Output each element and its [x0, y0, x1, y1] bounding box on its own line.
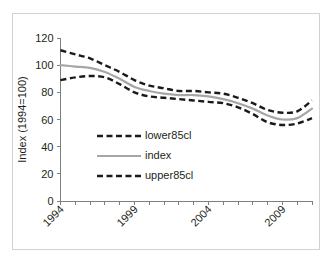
x-tick-label-group: 2009	[262, 203, 288, 229]
y-tick-label: 100	[35, 59, 53, 71]
x-tick-label: 2004	[188, 203, 214, 229]
chart-figure: 0204060801001201994199920042009Index (19…	[0, 0, 333, 258]
chart-canvas: 0204060801001201994199920042009Index (19…	[0, 0, 333, 258]
y-tick-label: 80	[41, 86, 53, 98]
y-axis-title: Index (1994=100)	[16, 76, 28, 163]
x-tick-label-group: 2004	[188, 203, 214, 229]
x-tick-label: 2009	[262, 203, 288, 229]
legend-label-upper85cl[interactable]: upper85cl	[145, 169, 193, 181]
y-tick-label: 120	[35, 32, 53, 44]
y-tick-label: 20	[41, 168, 53, 180]
y-tick-label: 60	[41, 114, 53, 126]
y-tick-label: 40	[41, 141, 53, 153]
x-tick-label: 1999	[114, 203, 140, 229]
legend-label-index[interactable]: index	[145, 149, 172, 161]
legend-label-lower85cl[interactable]: lower85cl	[145, 129, 191, 141]
series-line-index	[61, 65, 313, 120]
x-tick-label-group: 1994	[40, 203, 66, 229]
x-tick-label-group: 1999	[114, 203, 140, 229]
x-tick-label: 1994	[40, 203, 66, 229]
y-tick-label: 0	[47, 195, 53, 207]
series-line-upper85cl	[61, 50, 313, 113]
